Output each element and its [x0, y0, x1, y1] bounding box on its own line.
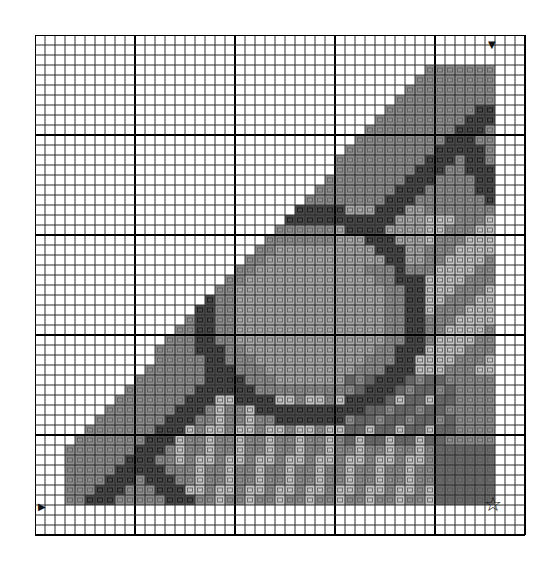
left-center-arrow-icon: ▶	[38, 502, 46, 512]
cross-stitch-chart	[35, 35, 527, 539]
top-center-arrow-icon: ▼	[488, 40, 496, 50]
star-icon: ☆	[484, 494, 502, 514]
